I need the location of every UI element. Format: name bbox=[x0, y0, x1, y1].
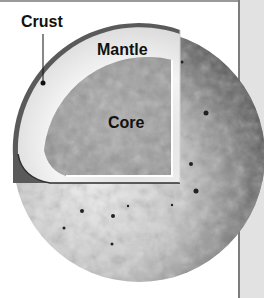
crust-label: Crust bbox=[21, 14, 63, 30]
core-label: Core bbox=[108, 115, 144, 131]
mantle-label: Mantle bbox=[97, 42, 148, 58]
